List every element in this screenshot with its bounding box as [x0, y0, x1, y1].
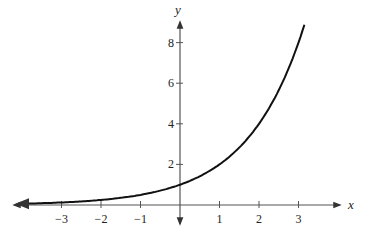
x-tick-label: −1 [134, 212, 147, 226]
x-tick-label: 1 [217, 212, 223, 226]
y-tick-label: 6 [168, 76, 174, 90]
x-tick-label: 3 [296, 212, 302, 226]
x-tick-label: 2 [256, 212, 262, 226]
y-tick-label: 2 [168, 157, 174, 171]
x-axis-label: x [347, 197, 354, 212]
exponential-curve [18, 25, 304, 204]
tick-marks: −3−2−11232468 [55, 36, 301, 226]
y-axis-label: y [173, 2, 181, 17]
y-tick-label: 4 [168, 117, 174, 131]
exponential-graph: −3−2−11232468 x y [0, 0, 375, 241]
x-tick-label: −2 [95, 212, 108, 226]
axes [14, 22, 340, 224]
x-tick-label: −3 [55, 212, 68, 226]
y-tick-label: 8 [168, 36, 174, 50]
